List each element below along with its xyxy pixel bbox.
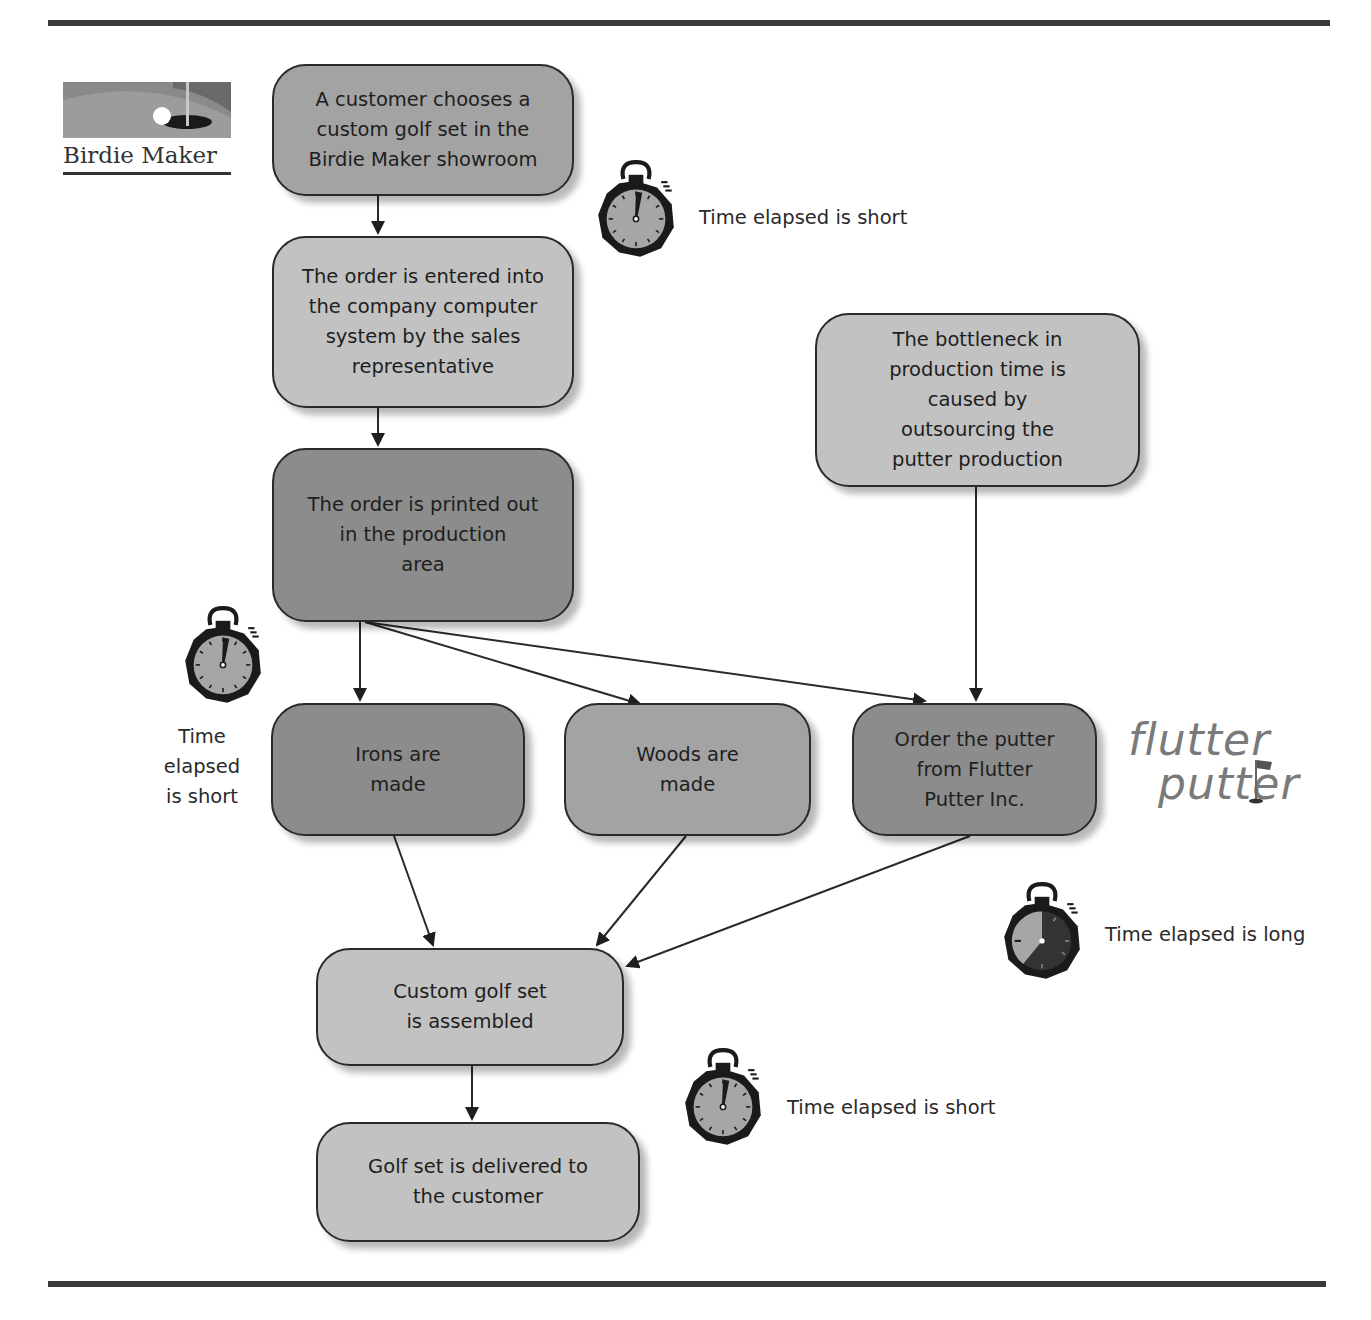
putter-wordmark: putter <box>1158 758 1299 809</box>
step-text: Golf set is delivered to the customer <box>368 1152 588 1212</box>
stopwatch-short-icon <box>181 604 265 709</box>
step-text: The order is printed out in the producti… <box>308 490 539 580</box>
birdie-maker-logo: Birdie Maker <box>63 82 231 175</box>
stopwatch-long-icon <box>1000 880 1084 985</box>
edge-irons-assembled <box>394 836 433 945</box>
note-bottleneck: The bottleneck in production time is cau… <box>815 313 1140 487</box>
step-irons-made: Irons are made <box>271 703 525 836</box>
birdie-maker-wordmark: Birdie Maker <box>63 140 231 170</box>
flutter-putter-logo: flutter putter <box>1128 718 1299 806</box>
edge-printed-woods <box>365 622 640 704</box>
step-order-putter: Order the putter from Flutter Putter Inc… <box>852 703 1097 836</box>
step-text: Irons are made <box>355 740 441 800</box>
step-order-entered: The order is entered into the company co… <box>272 236 574 408</box>
step-choose-golf-set: A customer chooses a custom golf set in … <box>272 64 574 196</box>
timer-label-4: Time elapsed is short <box>787 1093 995 1123</box>
step-set-delivered: Golf set is delivered to the customer <box>316 1122 640 1242</box>
timer-label-1: Time elapsed is short <box>699 203 907 233</box>
edge-putter-assembled <box>627 836 970 966</box>
edge-printed-putter <box>365 622 925 701</box>
timer-label-3: Time elapsed is long <box>1105 920 1305 950</box>
stopwatch-short-icon <box>681 1046 765 1151</box>
stopwatch-short-icon <box>594 158 678 263</box>
logo-underline <box>63 172 231 175</box>
step-text: The order is entered into the company co… <box>302 262 544 382</box>
golf-flag-icon <box>1246 756 1276 806</box>
step-order-printed: The order is printed out in the producti… <box>272 448 574 622</box>
step-text: A customer chooses a custom golf set in … <box>309 85 538 175</box>
step-text: Order the putter from Flutter Putter Inc… <box>895 725 1055 815</box>
step-set-assembled: Custom golf set is assembled <box>316 948 624 1066</box>
edge-woods-assembled <box>597 836 686 945</box>
step-text: The bottleneck in production time is cau… <box>889 325 1066 475</box>
step-woods-made: Woods are made <box>564 703 811 836</box>
timer-label-2: Time elapsed is short <box>160 722 244 812</box>
step-text: Custom golf set is assembled <box>393 977 547 1037</box>
golf-hole-icon <box>63 82 231 138</box>
step-text: Woods are made <box>636 740 738 800</box>
